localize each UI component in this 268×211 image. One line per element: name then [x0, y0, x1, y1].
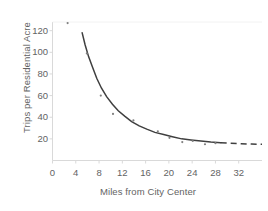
y-axis-title: Trips per Residential Acre — [21, 8, 32, 148]
x-tick-label: 4 — [66, 168, 86, 178]
scatter-point — [204, 143, 206, 145]
x-tick-label: 20 — [159, 168, 179, 178]
x-tick-label: 32 — [229, 168, 249, 178]
chart-container: 20 40 60 80 100 120 0 4 8 12 16 20 24 28… — [0, 0, 268, 211]
scatter-point — [67, 22, 69, 24]
x-tick-label: 16 — [136, 168, 156, 178]
scatter-point — [132, 119, 134, 121]
scatter-point — [192, 140, 194, 142]
x-tick-label: 12 — [112, 168, 132, 178]
scatter-point — [100, 94, 102, 96]
scatter-point — [214, 142, 216, 144]
scatter-point — [86, 52, 88, 54]
x-tick-label: 28 — [205, 168, 225, 178]
scatter-point — [168, 137, 170, 139]
scatter-point — [112, 113, 114, 115]
x-tick-label: 24 — [182, 168, 202, 178]
fit-curve-solid — [82, 33, 221, 143]
x-tick-label: 8 — [89, 168, 109, 178]
x-tick-label: 0 — [43, 168, 63, 178]
fit-curve-dashed — [221, 143, 262, 145]
scatter-point — [157, 130, 159, 132]
scatter-point — [181, 141, 183, 143]
x-axis-title: Miles from City Center — [52, 186, 244, 197]
